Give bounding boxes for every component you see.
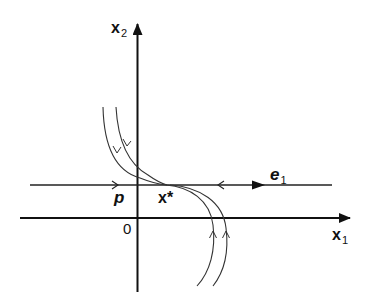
origin-label: 0	[123, 221, 131, 236]
point-p-label: p	[114, 189, 124, 206]
x1-axis-label: x1	[332, 227, 348, 246]
e1-filled-arrow-icon	[252, 181, 265, 190]
flow-arrow-lower-outer-icon	[223, 231, 230, 238]
trajectory-upper-outer	[103, 107, 166, 185]
eigenvector-label: e1	[270, 166, 287, 186]
fixed-point-label: x*	[158, 190, 173, 206]
x2-axis-label: x2	[111, 20, 127, 39]
trajectory-lower-inner	[166, 185, 214, 286]
flow-arrow-lower-inner-icon	[210, 231, 217, 238]
phase-portrait-diagram	[0, 0, 369, 306]
trajectory-lower-outer	[170, 185, 227, 286]
flow-arrow-upper-outer-icon	[113, 146, 121, 153]
trajectory-upper-inner	[116, 107, 167, 185]
flow-arrow-upper-inner-icon	[123, 139, 131, 146]
